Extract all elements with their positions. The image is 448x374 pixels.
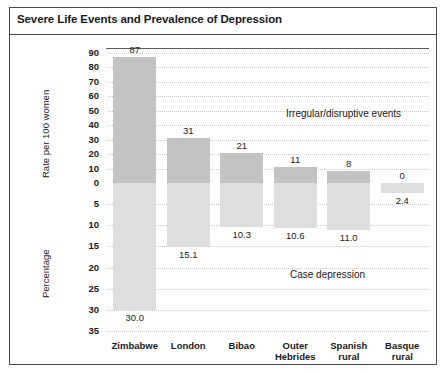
bar-lower — [113, 183, 156, 310]
category-label: Basque rural — [376, 340, 430, 362]
value-label-lower: 10.6 — [274, 230, 317, 241]
y-tick-label: 40 — [73, 119, 99, 130]
value-label-upper: 87 — [113, 44, 156, 55]
lower-axis-title: Percentage — [40, 249, 51, 298]
y-tick-label: 10 — [73, 163, 99, 174]
value-label-upper: 0 — [381, 170, 424, 181]
page-title: Severe Life Events and Prevalence of Dep… — [17, 13, 282, 25]
figure-frame: Severe Life Events and Prevalence of Dep… — [9, 7, 437, 365]
category-label: Spanish rural — [322, 340, 376, 362]
bar-lower — [381, 183, 424, 193]
category-label: London — [162, 340, 216, 351]
y-tick-label: 70 — [73, 76, 99, 87]
value-label-upper: 8 — [327, 158, 370, 169]
bar-lower — [220, 183, 263, 227]
bar-lower — [167, 183, 210, 247]
value-label-lower: 2.4 — [381, 195, 424, 206]
y-tick-label: 15 — [73, 240, 99, 251]
value-label-lower: 30.0 — [113, 312, 156, 323]
upper-axis-title: Rate per 100 women — [40, 90, 51, 178]
title-bar: Severe Life Events and Prevalence of Dep… — [10, 8, 436, 35]
bar-upper — [167, 138, 210, 183]
value-label-upper: 11 — [274, 154, 317, 165]
bar-upper — [274, 167, 317, 183]
annotation-case-depression: Case depression — [290, 269, 365, 280]
bar-upper — [220, 153, 263, 183]
y-tick-label: 35 — [73, 325, 99, 336]
bar-upper — [113, 57, 156, 183]
category-label: Bibao — [215, 340, 269, 351]
value-label-lower: 10.3 — [220, 229, 263, 240]
annotation-irregular-events: Irregular/disruptive events — [286, 108, 401, 119]
category-label: Outer Hebrides — [269, 340, 323, 362]
y-tick-label: 0 — [73, 177, 99, 188]
gridline — [108, 310, 429, 311]
y-tick-label: 5 — [73, 198, 99, 209]
y-tick-label: 30 — [73, 304, 99, 315]
bar-upper — [327, 171, 370, 183]
y-tick-label: 10 — [73, 219, 99, 230]
plot-area: 8730.03115.12110.31110.6811.002.4 Irregu… — [108, 48, 429, 336]
y-tick-label: 90 — [73, 47, 99, 58]
y-tick-label: 20 — [73, 262, 99, 273]
value-label-lower: 11.0 — [327, 232, 370, 243]
gridline — [108, 331, 429, 332]
y-tick-label: 30 — [73, 134, 99, 145]
bar-lower — [274, 183, 317, 228]
y-tick-label: 20 — [73, 148, 99, 159]
value-label-upper: 31 — [167, 125, 210, 136]
y-tick-label: 80 — [73, 61, 99, 72]
y-tick-label: 25 — [73, 283, 99, 294]
category-label: Zimbabwe — [108, 340, 162, 351]
bar-lower — [327, 183, 370, 230]
value-label-lower: 15.1 — [167, 249, 210, 260]
y-tick-label: 50 — [73, 105, 99, 116]
y-tick-label: 60 — [73, 90, 99, 101]
value-label-upper: 21 — [220, 140, 263, 151]
